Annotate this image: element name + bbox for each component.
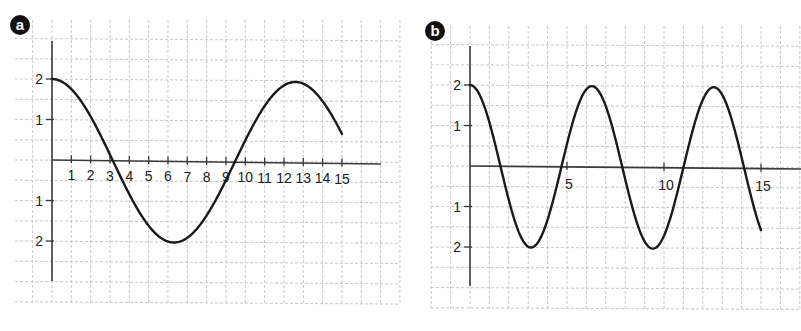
y-tick-label: 1 bbox=[453, 118, 461, 134]
figure: 1234567891011121314152112 a 510152112 b bbox=[0, 0, 801, 331]
x-tick-label: 10 bbox=[658, 177, 674, 193]
y-tick-label: 2 bbox=[35, 233, 43, 249]
y-tick-label: 2 bbox=[453, 239, 461, 255]
panel-badge-a: a bbox=[10, 15, 30, 35]
grid-line-horizontal bbox=[431, 267, 801, 269]
x-tick-label: 3 bbox=[106, 168, 114, 184]
grid-line-horizontal bbox=[15, 39, 400, 41]
grid-line-horizontal bbox=[431, 247, 801, 249]
grid-line-horizontal bbox=[431, 85, 801, 87]
y-tick-label: 2 bbox=[35, 71, 43, 87]
grid-line-horizontal bbox=[15, 59, 400, 61]
x-tick-label: 10 bbox=[238, 169, 254, 185]
x-tick-label: 13 bbox=[296, 170, 312, 186]
panel-b: 510152112 b bbox=[425, 21, 801, 310]
x-tick-label: 4 bbox=[125, 168, 133, 184]
x-tick-label: 15 bbox=[755, 178, 771, 194]
grid-line-horizontal bbox=[431, 308, 801, 310]
x-tick-label: 6 bbox=[164, 168, 172, 184]
x-tick-label: 1 bbox=[67, 167, 75, 183]
badge-a-label: a bbox=[16, 16, 25, 33]
x-tick-label: 11 bbox=[257, 170, 272, 186]
grid-line-horizontal bbox=[431, 45, 801, 47]
x-tick-label: 2 bbox=[87, 167, 95, 183]
y-tick-label: 2 bbox=[453, 77, 461, 93]
x-tick-label: 14 bbox=[315, 170, 331, 186]
x-tick-label: 15 bbox=[334, 171, 350, 187]
panel-a: 1234567891011121314152112 a bbox=[10, 15, 400, 305]
x-tick-label: 7 bbox=[183, 169, 191, 185]
grid-line-horizontal bbox=[431, 186, 801, 188]
badge-b-label: b bbox=[430, 22, 439, 39]
grid-line-horizontal bbox=[431, 126, 801, 128]
x-tick-label: 5 bbox=[565, 176, 573, 192]
grid-line-horizontal bbox=[431, 65, 801, 67]
y-tick-label: 1 bbox=[453, 199, 461, 215]
y-tick-label: 1 bbox=[35, 112, 43, 128]
grid-line-horizontal bbox=[431, 105, 801, 107]
grid-line-horizontal bbox=[431, 227, 801, 229]
axes-b bbox=[470, 46, 801, 286]
panel-badge-b: b bbox=[425, 21, 445, 41]
grid-line-horizontal bbox=[431, 207, 801, 209]
x-tick-label: 5 bbox=[145, 168, 153, 184]
grid-line-horizontal bbox=[431, 288, 801, 290]
x-tick-label: 8 bbox=[203, 169, 211, 185]
x-tick-label: 12 bbox=[276, 170, 292, 186]
y-tick-label: 1 bbox=[35, 193, 43, 209]
